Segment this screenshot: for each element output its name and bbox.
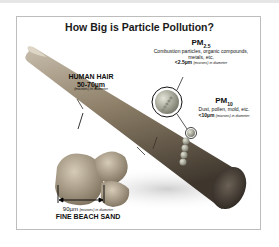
sand-size-line: 90µm (microns) in diameter bbox=[43, 206, 133, 213]
pm10-label: PM10 Dust, pollen, mold, etc. <10µm (mic… bbox=[187, 97, 261, 119]
hair-measure-arrow bbox=[78, 113, 83, 129]
hair-name: HUMAN HAIR bbox=[63, 73, 119, 81]
pm25-size-line: <2.5µm (microns) in diameter bbox=[151, 60, 251, 66]
sand-grains bbox=[55, 151, 129, 207]
sand-label: 90µm (microns) in diameter FINE BEACH SA… bbox=[43, 206, 133, 221]
top-bar bbox=[0, 0, 279, 3]
diagram-frame: How Big is Particle Pollution? bbox=[16, 16, 261, 230]
pm25-label: PM2.5 Combustion particles, organic comp… bbox=[151, 39, 251, 66]
sand-name: FINE BEACH SAND bbox=[43, 213, 133, 221]
hair-unit-note: (microns) in diameter bbox=[63, 88, 119, 92]
pm25-description: Combustion particles, organic compounds,… bbox=[151, 49, 251, 60]
hair-label: HUMAN HAIR 50-70µm (microns) in diameter bbox=[63, 73, 119, 92]
pm10-size-line: <10µm (microns) in diameter bbox=[187, 113, 261, 119]
